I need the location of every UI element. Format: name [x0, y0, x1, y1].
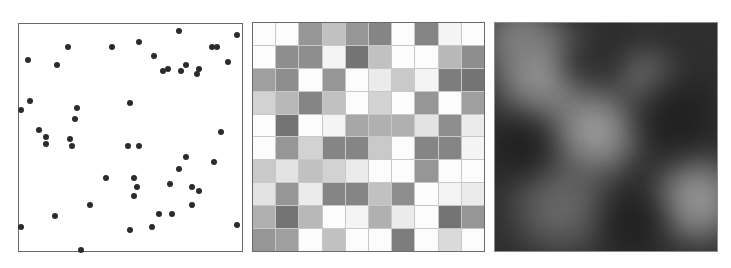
- heatmap-cell: [253, 46, 275, 68]
- scatter-point: [52, 213, 58, 219]
- dark-region: [592, 183, 672, 252]
- heatmap-cell: [392, 137, 414, 159]
- heatmap-cell: [415, 46, 437, 68]
- scatter-point: [18, 107, 24, 113]
- heatmap-cell: [392, 206, 414, 228]
- heatmap-cell: [369, 23, 391, 45]
- heatmap-cell: [253, 92, 275, 114]
- scatter-point: [36, 127, 42, 133]
- heatmap-cell: [276, 160, 298, 182]
- heatmap-cell: [415, 137, 437, 159]
- scatter-point: [234, 222, 240, 228]
- heatmap-cell: [439, 229, 461, 251]
- heatmap-cell: [392, 46, 414, 68]
- scatter-point: [109, 44, 115, 50]
- heatmap-cell: [299, 115, 321, 137]
- heatmap-cell: [392, 183, 414, 205]
- heatmap-cell: [392, 69, 414, 91]
- heatmap-cell: [323, 137, 345, 159]
- scatter-point: [218, 129, 224, 135]
- scatter-point: [78, 247, 84, 253]
- heatmap-cell: [253, 115, 275, 137]
- scatter-point: [103, 175, 109, 181]
- heatmap-cell: [462, 69, 484, 91]
- scatter-point: [127, 100, 133, 106]
- scatter-point: [160, 68, 166, 74]
- scatter-point: [169, 211, 175, 217]
- scatter-point: [211, 159, 217, 165]
- heatmap-cell: [462, 115, 484, 137]
- heatmap-cell: [346, 69, 368, 91]
- heatmap-cell: [346, 23, 368, 45]
- heatmap-cell: [323, 46, 345, 68]
- scatter-point: [196, 188, 202, 194]
- heatmap-cell: [253, 137, 275, 159]
- scatter-point: [125, 143, 131, 149]
- scatter-point: [178, 68, 184, 74]
- heatmap-cell: [392, 160, 414, 182]
- scatter-point: [131, 193, 137, 199]
- scatter-point: [225, 59, 231, 65]
- heatmap-cell: [462, 206, 484, 228]
- heatmap-cell: [323, 206, 345, 228]
- heatmap-cell: [346, 183, 368, 205]
- scatter-point: [183, 62, 189, 68]
- heatmap-cell: [439, 160, 461, 182]
- heatmap-cell: [462, 23, 484, 45]
- heatmap-cell: [276, 92, 298, 114]
- heatmap-cell: [276, 23, 298, 45]
- heatmap-cell: [439, 115, 461, 137]
- heatmap-cell: [299, 206, 321, 228]
- scatter-point: [27, 98, 33, 104]
- heatmap-cell: [439, 183, 461, 205]
- heatmap-cell: [369, 69, 391, 91]
- scatter-point: [136, 39, 142, 45]
- heatmap-cell: [392, 92, 414, 114]
- heatmap-cell: [392, 115, 414, 137]
- scatter-point: [134, 184, 140, 190]
- heatmap-cell: [439, 92, 461, 114]
- scatter-point: [167, 181, 173, 187]
- heatmap-cell: [299, 229, 321, 251]
- heatmap-cell: [392, 23, 414, 45]
- heatmap-cell: [299, 46, 321, 68]
- heatmap-cell: [276, 206, 298, 228]
- heatmap-cell: [346, 115, 368, 137]
- heatmap-cell: [253, 206, 275, 228]
- scatter-point: [127, 227, 133, 233]
- scatter-point: [72, 116, 78, 122]
- heatmap-cell: [299, 92, 321, 114]
- scatter-plot: [18, 23, 243, 252]
- heatmap-cell: [439, 23, 461, 45]
- scatter-point: [67, 136, 73, 142]
- heatmap-cell: [323, 23, 345, 45]
- heatmap-cell: [323, 183, 345, 205]
- heatmap-cell: [462, 160, 484, 182]
- heatmap-cell: [253, 229, 275, 251]
- heatmap-cell: [323, 115, 345, 137]
- scatter-point: [69, 143, 75, 149]
- scatter-point: [43, 141, 49, 147]
- heatmap-cell: [462, 229, 484, 251]
- heatmap-cell: [276, 229, 298, 251]
- heatmap-cell: [346, 46, 368, 68]
- heatmap-cell: [462, 183, 484, 205]
- heatmap-cell: [369, 229, 391, 251]
- scatter-point: [136, 143, 142, 149]
- scatter-point: [189, 202, 195, 208]
- heatmap-cell: [299, 23, 321, 45]
- scatter-point: [25, 57, 31, 63]
- heatmap-cell: [369, 160, 391, 182]
- heatmap-cell: [369, 115, 391, 137]
- scatter-point: [156, 211, 162, 217]
- scatter-point: [214, 44, 220, 50]
- heatmap-cell: [369, 92, 391, 114]
- scatter-point: [54, 62, 60, 68]
- heatmap-cell: [276, 69, 298, 91]
- heatmap-cell: [415, 206, 437, 228]
- scatter-point: [65, 44, 71, 50]
- heatmap-cell: [439, 137, 461, 159]
- heatmap-cell: [369, 137, 391, 159]
- heatmap-cell: [415, 183, 437, 205]
- heatmap-cell: [415, 160, 437, 182]
